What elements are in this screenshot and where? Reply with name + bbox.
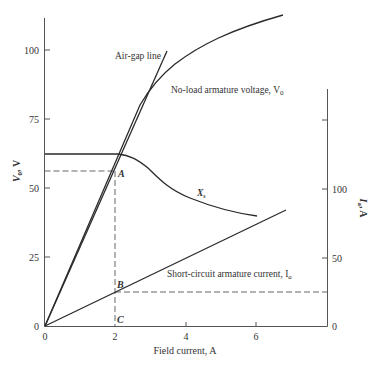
short-circuit-label: Short-circuit armature current, Ia	[167, 269, 292, 281]
y-left-tick-100: 100	[24, 45, 39, 56]
y-right-title: Ia, A	[356, 197, 369, 218]
y-right-ticks: 100 50 0	[322, 120, 347, 332]
y-right-tick-50: 50	[332, 253, 342, 264]
y-left-ticks: 100 75 50 25 0	[24, 45, 50, 332]
air-gap-label: Air-gap line	[115, 51, 161, 61]
y-left-tick-75: 75	[29, 114, 39, 125]
point-b-label: B	[116, 279, 124, 290]
y-left-tick-25: 25	[29, 252, 39, 263]
x-tick-4: 4	[184, 331, 189, 342]
x-tick-2: 2	[113, 331, 118, 342]
y-left-title: V0, V	[11, 159, 24, 182]
x-tick-0: 0	[43, 331, 48, 342]
y-left-tick-0: 0	[34, 321, 39, 332]
y-right-tick-100: 100	[332, 184, 347, 195]
no-load-label: No-load armature voltage, V0	[171, 85, 284, 97]
xs-curve	[45, 154, 257, 216]
x-axis-title: Field current, A	[153, 345, 217, 356]
x-ticks: 0 2 4 6	[43, 322, 259, 342]
chart-svg: 100 75 50 25 0 100 50 0 0 2 4 6 Field cu…	[0, 0, 378, 367]
x-tick-6: 6	[254, 331, 259, 342]
point-a-label: A	[117, 168, 125, 179]
svg-text:V0, V: V0, V	[11, 159, 24, 182]
y-right-tick-0: 0	[332, 321, 337, 332]
point-c-label: C	[117, 314, 124, 325]
xs-label: Xs	[196, 188, 206, 199]
y-left-tick-50: 50	[29, 183, 39, 194]
chart-container: 100 75 50 25 0 100 50 0 0 2 4 6 Field cu…	[0, 0, 378, 367]
short-circuit-current-line	[45, 210, 286, 326]
svg-text:Ia, A: Ia, A	[356, 197, 369, 218]
